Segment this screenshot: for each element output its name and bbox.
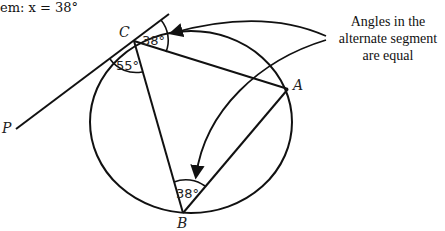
chord-ca (134, 41, 288, 89)
point-label-p: P (1, 120, 12, 136)
annotation-line-3: are equal (363, 48, 414, 63)
point-label-b: B (176, 215, 187, 231)
annotation-line-1: Angles in the (351, 14, 426, 29)
point-label-a: A (291, 77, 303, 93)
circle-theorem-diagram: em: x = 38° 38° 55° 38° C A B P Angles i… (0, 0, 445, 231)
arrow-to-c-angle (172, 21, 326, 36)
angle-label-c-tangent: 55° (116, 58, 139, 73)
angle-label-c-alt: 38° (142, 33, 165, 48)
angle-label-b: 38° (176, 186, 199, 201)
arrow-to-b-angle (196, 40, 326, 176)
annotation-line-2: alternate segment (339, 31, 437, 46)
tangent-line (16, 14, 169, 129)
point-label-c: C (119, 24, 130, 40)
header-text: em: x = 38° (0, 0, 78, 15)
